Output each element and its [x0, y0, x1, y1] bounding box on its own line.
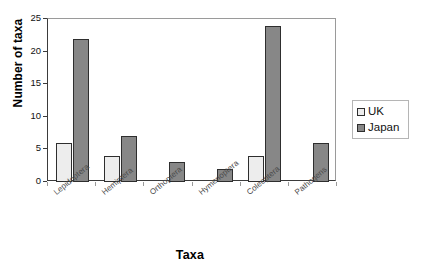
clipped-title-remnant: · — [77, 0, 81, 1]
x-axis-title: Taxa — [0, 248, 380, 262]
y-tick-label: 0 — [21, 176, 41, 185]
plot-area — [47, 18, 336, 181]
chart-figure: · Number of taxa 0510152025 LepidopteraH… — [0, 0, 426, 272]
x-tick-mark — [47, 182, 48, 186]
y-tick-label: 10 — [21, 111, 41, 120]
y-tick-label: 20 — [21, 46, 41, 55]
bar-lepidoptera-japan — [73, 39, 89, 182]
x-tick-mark — [336, 182, 337, 186]
legend-swatch-japan — [357, 124, 365, 132]
bar-coleoptera-japan — [265, 26, 281, 182]
legend-label-uk: UK — [368, 106, 384, 117]
legend-label-japan: Japan — [368, 122, 399, 133]
x-tick-mark — [288, 182, 289, 186]
legend-swatch-uk — [357, 108, 365, 116]
x-tick-mark — [95, 182, 96, 186]
x-tick-mark — [240, 182, 241, 186]
legend-item-uk[interactable]: UK — [357, 104, 384, 119]
y-tick-label: 15 — [21, 78, 41, 87]
y-tick-label: 25 — [21, 13, 41, 22]
chart-legend: UK Japan — [352, 100, 409, 139]
legend-item-japan[interactable]: Japan — [357, 120, 399, 135]
y-tick-label: 5 — [21, 143, 41, 152]
x-tick-mark — [192, 182, 193, 186]
x-tick-mark — [143, 182, 144, 186]
